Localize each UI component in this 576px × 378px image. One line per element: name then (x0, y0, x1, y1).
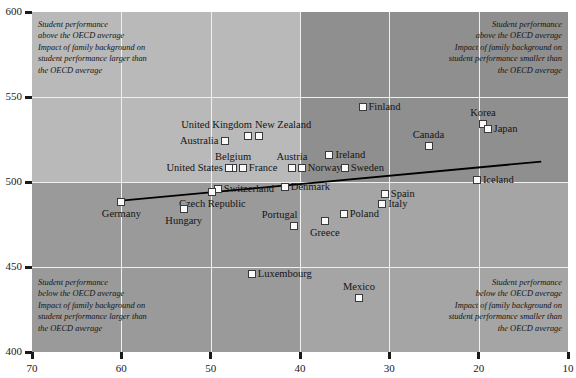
data-point-label: Australia (180, 135, 219, 146)
data-point-label: Luxembourg (258, 268, 312, 279)
y-axis-tick (25, 181, 32, 184)
data-point-marker[interactable] (340, 210, 348, 218)
x-axis-tick-label: 60 (106, 362, 136, 374)
data-point-label: Germany (102, 208, 141, 219)
gridline-horizontal (32, 97, 568, 98)
data-point-marker[interactable] (208, 188, 216, 196)
data-point-label: Mexico (343, 281, 375, 292)
x-axis-tick (299, 352, 302, 359)
x-axis-tick (388, 352, 391, 359)
scatter-chart: FinlandCanadaIrelandKoreaJapanSwedenUnit… (0, 0, 576, 378)
data-point-marker[interactable] (225, 164, 233, 172)
data-point-label: Iceland (483, 174, 514, 185)
data-point-label: United States (167, 162, 223, 173)
data-point-marker[interactable] (248, 270, 256, 278)
data-point-label: Greece (310, 227, 340, 238)
y-axis-tick-label: 500 (0, 175, 22, 187)
data-point-marker[interactable] (378, 200, 386, 208)
data-point-marker[interactable] (244, 132, 252, 140)
data-point-label: Italy (388, 198, 407, 209)
data-point-label: Portugal (262, 209, 298, 220)
y-axis-tick (25, 266, 32, 269)
data-point-label: Japan (494, 123, 518, 134)
data-point-label: Ireland (335, 149, 365, 160)
x-axis-tick-label: 30 (374, 362, 404, 374)
data-point-label: New Zealand (255, 119, 311, 130)
x-axis-tick-label: 10 (553, 362, 576, 374)
quadrant-annotation-top-left: Student performance above the OECD avera… (38, 19, 147, 76)
quadrant-annotation-top-right: Student performance above the OECD avera… (449, 19, 562, 76)
data-point-label: France (249, 162, 278, 173)
data-point-marker[interactable] (321, 217, 329, 225)
data-point-label: United Kingdom (181, 119, 252, 130)
quadrant-annotation-bottom-right: Student performance below the OECD avera… (449, 277, 562, 334)
y-axis-tick-label: 450 (0, 260, 22, 272)
data-point-label: Norway (308, 162, 342, 173)
x-axis-tick (477, 352, 480, 359)
data-point-marker[interactable] (288, 164, 296, 172)
data-point-marker[interactable] (484, 125, 492, 133)
data-point-label: Belgium (215, 151, 251, 162)
y-axis-tick-label: 600 (0, 5, 22, 17)
data-point-label: Korea (470, 107, 496, 118)
y-axis-tick-label: 400 (0, 345, 22, 357)
x-axis-tick-label: 50 (196, 362, 226, 374)
data-point-marker[interactable] (355, 294, 363, 302)
data-point-label: Denmark (291, 181, 330, 192)
y-axis-tick (25, 96, 32, 99)
data-point-marker[interactable] (359, 103, 367, 111)
quadrant-annotation-bottom-left: Student performance below the OECD avera… (38, 277, 147, 334)
data-point-label: Finland (369, 101, 401, 112)
data-point-label: Sweden (351, 162, 384, 173)
data-point-label: Czech Republic (179, 198, 246, 209)
data-point-marker[interactable] (290, 222, 298, 230)
data-point-marker[interactable] (239, 164, 247, 172)
x-axis-tick-label: 40 (285, 362, 315, 374)
data-point-marker[interactable] (281, 183, 289, 191)
x-axis-tick-label: 20 (464, 362, 494, 374)
x-axis-tick (31, 352, 34, 359)
x-axis-tick (209, 352, 212, 359)
x-axis-tick (567, 352, 570, 359)
data-point-marker[interactable] (473, 176, 481, 184)
x-axis-tick-label: 70 (17, 362, 47, 374)
y-axis-tick (25, 11, 32, 14)
data-point-label: Austria (276, 151, 307, 162)
data-point-marker[interactable] (180, 205, 188, 213)
data-point-label: Poland (350, 208, 379, 219)
data-point-marker[interactable] (381, 190, 389, 198)
data-point-marker[interactable] (325, 151, 333, 159)
data-point-label: Hungary (165, 215, 202, 226)
data-point-marker[interactable] (298, 164, 306, 172)
data-point-label: Canada (413, 129, 445, 140)
x-axis-tick (120, 352, 123, 359)
data-point-marker[interactable] (255, 132, 263, 140)
data-point-marker[interactable] (425, 142, 433, 150)
data-point-marker[interactable] (117, 198, 125, 206)
y-axis-tick-label: 550 (0, 90, 22, 102)
data-point-label: Switzerland (224, 183, 274, 194)
data-point-marker[interactable] (221, 137, 229, 145)
